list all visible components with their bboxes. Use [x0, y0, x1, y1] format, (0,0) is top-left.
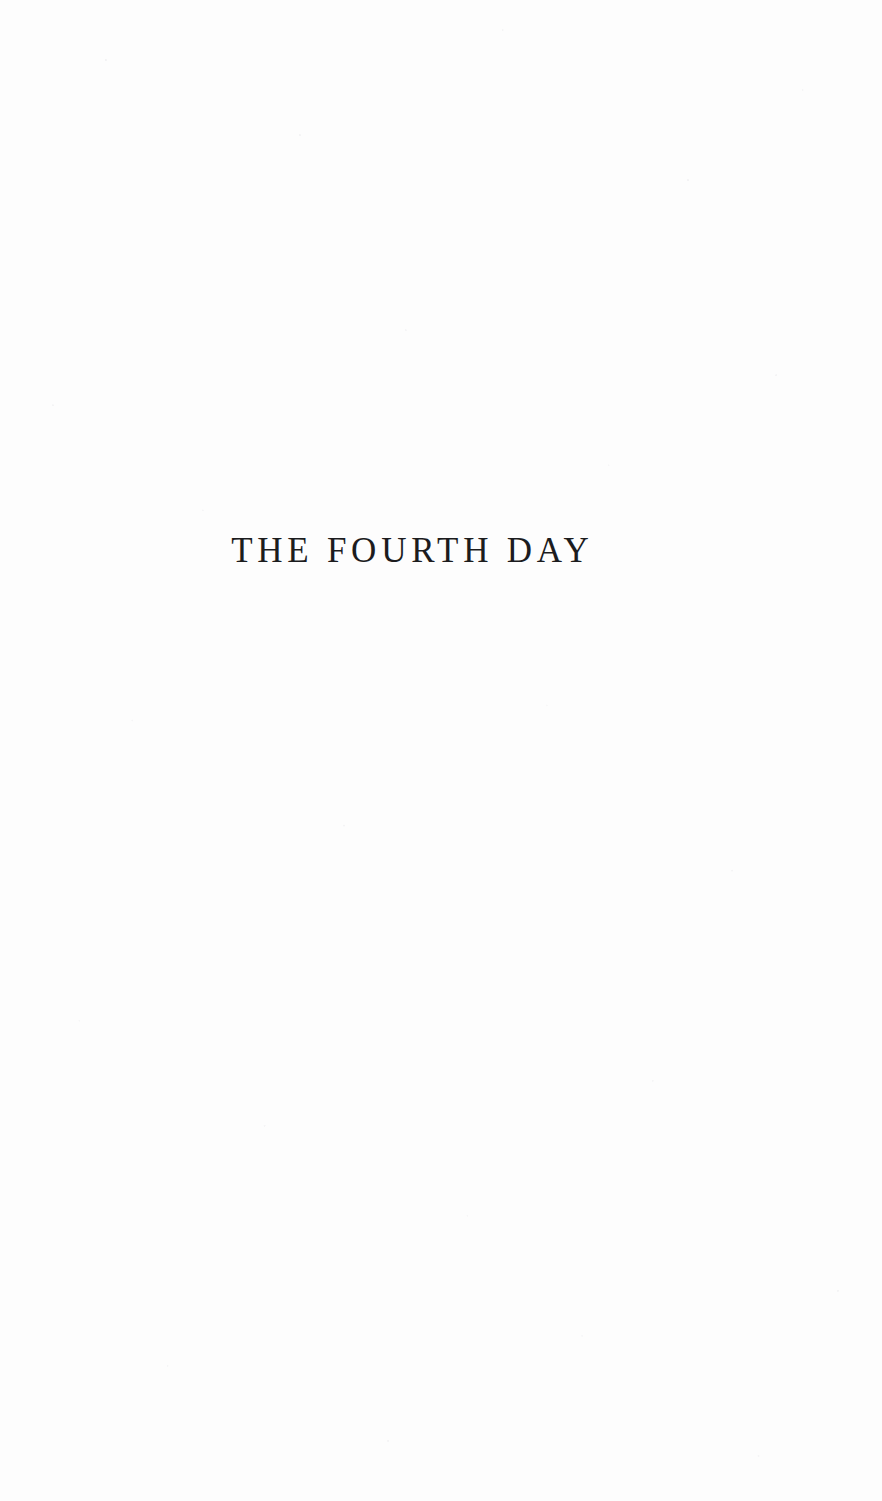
- part-title: THE FOURTH DAY: [0, 533, 820, 568]
- book-page: THE FOURTH DAY: [0, 0, 882, 1501]
- paper-grain-texture: [0, 0, 882, 1501]
- part-title-block: THE FOURTH DAY: [0, 533, 820, 568]
